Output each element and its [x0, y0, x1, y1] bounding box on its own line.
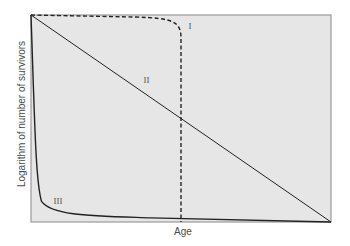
x-axis-label: Age [174, 226, 192, 237]
curve-label-I: I [189, 21, 192, 31]
curve-label-III: III [54, 196, 63, 206]
y-axis-label: Logarithm of number of survivors [16, 41, 27, 187]
curve-label-II: II [144, 75, 150, 85]
survivorship-chart [0, 0, 350, 246]
